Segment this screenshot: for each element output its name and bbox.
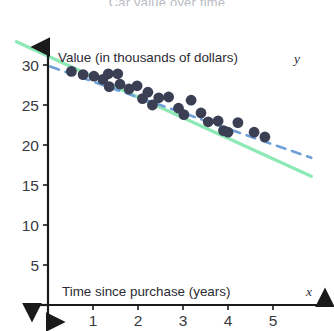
- x-tick-label: 3: [179, 312, 188, 329]
- data-point: [103, 68, 114, 79]
- data-point: [203, 116, 214, 127]
- chart-container: Car value over time 5101520253012345: [0, 0, 334, 331]
- data-point: [163, 92, 174, 103]
- x-tick-label: 2: [134, 312, 143, 329]
- data-point: [260, 132, 271, 143]
- y-tick-label: 10: [22, 217, 40, 234]
- y-tick-label: 20: [22, 137, 40, 154]
- y-tick-label: 15: [22, 177, 39, 194]
- data-points-layer: [66, 66, 270, 142]
- data-point: [213, 116, 224, 127]
- data-point: [186, 95, 197, 106]
- data-point: [143, 87, 154, 98]
- x-axis-label: Time since purchase (years): [62, 284, 230, 299]
- data-point: [132, 80, 143, 91]
- data-point: [66, 66, 77, 77]
- y-tick-label: 25: [22, 97, 39, 114]
- data-point: [223, 127, 234, 138]
- data-point: [233, 117, 244, 128]
- y-tick-label: 5: [30, 257, 39, 274]
- data-point: [179, 109, 190, 120]
- x-tick-label: 1: [89, 312, 98, 329]
- y-tick-label: 30: [22, 57, 40, 74]
- x-axis-variable: x: [305, 284, 312, 299]
- data-point: [196, 108, 207, 119]
- x-tick-label: 5: [269, 312, 278, 329]
- x-tick-label: 4: [224, 312, 233, 329]
- data-point: [249, 127, 260, 138]
- y-axis-label: Value (in thousands of dollars): [58, 50, 238, 65]
- data-point: [78, 69, 89, 80]
- data-point: [153, 92, 164, 103]
- axes-layer: [32, 47, 325, 322]
- y-axis-variable: y: [292, 51, 300, 66]
- data-point: [112, 68, 123, 79]
- data-point: [104, 81, 115, 92]
- scatter-plot-svg: 5101520253012345 Value (in thousands of …: [0, 0, 334, 331]
